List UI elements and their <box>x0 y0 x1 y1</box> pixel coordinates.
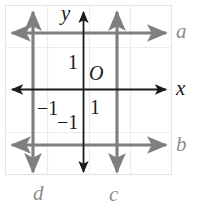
coordinate-grid-figure: y a x b d c 1 O −1 1 −1 <box>0 0 199 214</box>
line-d-label: d <box>33 183 44 204</box>
line-b-label: b <box>176 134 187 155</box>
origin-label: O <box>89 63 103 83</box>
x-unit-positive-label: 1 <box>90 97 100 117</box>
y-unit-negative-label: −1 <box>57 112 78 132</box>
y-unit-positive-label: 1 <box>68 52 78 72</box>
line-c-label: c <box>109 184 118 205</box>
x-unit-negative-label: −1 <box>37 98 58 118</box>
x-axis-label: x <box>176 78 185 99</box>
line-a-label: a <box>176 21 187 42</box>
y-axis-label: y <box>61 3 70 24</box>
